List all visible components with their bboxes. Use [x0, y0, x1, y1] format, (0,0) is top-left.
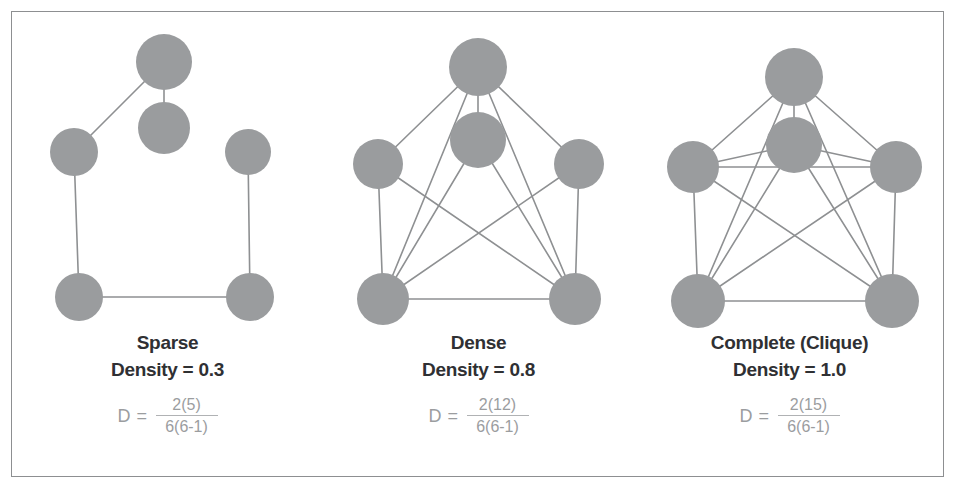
graph-node	[225, 129, 271, 175]
panel-title: Sparse	[12, 330, 323, 356]
caption-complete: Complete (Clique) Density = 1.0 D = 2(15…	[634, 330, 945, 435]
graph-node	[226, 273, 274, 321]
edge-layer	[74, 62, 250, 297]
panel-density-label: Density = 1.0	[634, 357, 945, 383]
graph-edge	[378, 164, 575, 299]
graph-node	[667, 141, 719, 193]
graph-node	[55, 273, 103, 321]
panel-dense: Dense Density = 0.8 D = 2(12) 6(6-1)	[323, 12, 634, 476]
graph-sparse	[12, 12, 323, 332]
graph-complete	[634, 12, 945, 332]
node-layer	[667, 48, 922, 328]
graph-node	[765, 48, 823, 106]
density-formula: D = 2(15) 6(6-1)	[634, 397, 945, 435]
density-formula: D = 2(5) 6(6-1)	[12, 397, 323, 435]
graph-edge	[383, 67, 478, 299]
graph-node	[450, 112, 506, 168]
graph-node	[353, 139, 403, 189]
panel-complete: Complete (Clique) Density = 1.0 D = 2(15…	[634, 12, 945, 476]
formula-denominator: 6(6-1)	[470, 416, 525, 435]
graph-node	[870, 141, 922, 193]
figure-frame: Sparse Density = 0.3 D = 2(5) 6(6-1) Den…	[11, 11, 944, 477]
graph-node	[671, 274, 725, 328]
density-formula: D = 2(12) 6(6-1)	[323, 397, 634, 435]
graph-dense	[323, 12, 634, 332]
formula-lhs: D =	[739, 407, 769, 425]
formula-fraction: 2(15) 6(6-1)	[778, 397, 840, 435]
graph-edge	[698, 167, 896, 301]
graph-node	[357, 273, 409, 325]
formula-lhs: D =	[117, 407, 147, 425]
caption-dense: Dense Density = 0.8 D = 2(12) 6(6-1)	[323, 330, 634, 435]
figure-root: Sparse Density = 0.3 D = 2(5) 6(6-1) Den…	[0, 0, 957, 489]
panel-title: Complete (Clique)	[634, 330, 945, 356]
edge-layer	[378, 67, 579, 299]
node-layer	[50, 34, 274, 321]
formula-denominator: 6(6-1)	[159, 416, 214, 435]
formula-numerator: 2(15)	[784, 397, 833, 415]
caption-sparse: Sparse Density = 0.3 D = 2(5) 6(6-1)	[12, 330, 323, 435]
panel-title: Dense	[323, 330, 634, 356]
formula-numerator: 2(12)	[473, 397, 522, 415]
panel-sparse: Sparse Density = 0.3 D = 2(5) 6(6-1)	[12, 12, 323, 476]
graph-edge	[698, 77, 794, 301]
formula-fraction: 2(12) 6(6-1)	[467, 397, 529, 435]
graph-edge	[478, 67, 575, 299]
formula-lhs: D =	[428, 407, 458, 425]
formula-fraction: 2(5) 6(6-1)	[156, 397, 218, 435]
node-layer	[353, 38, 604, 325]
graph-node	[554, 139, 604, 189]
formula-denominator: 6(6-1)	[781, 416, 836, 435]
graph-node	[138, 102, 190, 154]
graph-edge	[383, 164, 579, 299]
graph-node	[136, 34, 192, 90]
edge-layer	[693, 77, 896, 301]
formula-numerator: 2(5)	[166, 397, 206, 415]
graph-node	[549, 273, 601, 325]
graph-node	[766, 117, 822, 173]
graph-node	[865, 274, 919, 328]
graph-node	[449, 38, 507, 96]
panel-density-label: Density = 0.8	[323, 357, 634, 383]
graph-node	[50, 128, 98, 176]
panel-density-label: Density = 0.3	[12, 357, 323, 383]
